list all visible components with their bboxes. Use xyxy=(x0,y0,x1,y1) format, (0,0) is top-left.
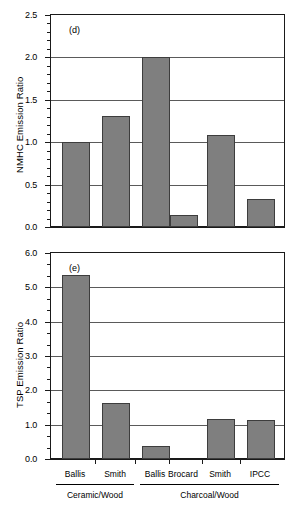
y-axis-minor-tick xyxy=(47,299,50,300)
y-axis-minor-tick xyxy=(47,159,50,160)
panel-label-e: (e) xyxy=(69,263,80,273)
y-axis-minor-tick xyxy=(47,210,50,211)
plot-area-nmhc: (d) xyxy=(50,14,285,228)
y-axis-minor-tick xyxy=(47,74,50,75)
y-axis-tick-label: 5.0 xyxy=(7,283,37,292)
y-axis-tick xyxy=(45,356,50,357)
y-axis-tick xyxy=(45,100,50,101)
y-axis-minor-tick xyxy=(47,66,50,67)
y-axis-tick xyxy=(45,57,50,58)
y-axis-minor-tick xyxy=(47,117,50,118)
y-axis-tick xyxy=(45,459,50,460)
y-axis-tick xyxy=(45,425,50,426)
y-axis-minor-tick xyxy=(47,83,50,84)
bar xyxy=(62,142,90,227)
y-axis-tick xyxy=(45,185,50,186)
y-axis-tick-label: 2.0 xyxy=(7,53,37,62)
y-axis-minor-tick xyxy=(47,367,50,368)
group-label: Ceramic/Wood xyxy=(56,490,134,500)
y-axis-tick xyxy=(45,390,50,391)
bar xyxy=(102,403,130,459)
group-bracket xyxy=(140,484,279,485)
y-axis-minor-tick xyxy=(47,32,50,33)
y-axis-title-nmhc: NMHC Emission Ratio xyxy=(14,77,25,173)
bar xyxy=(207,135,235,227)
y-axis-tick xyxy=(45,287,50,288)
x-axis-tick xyxy=(169,460,170,464)
y-axis-tick-label: 1.0 xyxy=(7,421,37,430)
y-axis-minor-tick xyxy=(47,379,50,380)
group-label: Charcoal/Wood xyxy=(140,490,279,500)
y-axis-tick xyxy=(45,15,50,16)
x-axis-tick xyxy=(240,460,241,464)
x-axis-tick xyxy=(202,460,203,464)
y-axis-tick-label: 1.5 xyxy=(7,96,37,105)
y-axis-tick-label: 0.5 xyxy=(7,181,37,190)
y-axis-minor-tick xyxy=(47,448,50,449)
y-axis-minor-tick xyxy=(47,202,50,203)
bar xyxy=(102,116,130,227)
bar xyxy=(170,215,198,227)
y-axis-minor-tick xyxy=(47,151,50,152)
y-axis-minor-tick xyxy=(47,23,50,24)
y-axis-minor-tick xyxy=(47,310,50,311)
y-axis-tick xyxy=(45,253,50,254)
y-axis-minor-tick xyxy=(47,91,50,92)
y-axis-minor-tick xyxy=(47,264,50,265)
y-axis-minor-tick xyxy=(47,168,50,169)
y-axis-minor-tick xyxy=(47,345,50,346)
figure-emission-ratios: NMHC Emission Ratio (d) TSP Emission Rat… xyxy=(0,0,299,521)
group-bracket xyxy=(56,484,134,485)
y-axis-tick xyxy=(45,227,50,228)
y-axis-minor-tick xyxy=(47,413,50,414)
y-axis-minor-tick xyxy=(47,108,50,109)
x-axis-tick xyxy=(135,460,136,464)
y-axis-minor-tick xyxy=(47,402,50,403)
y-axis-tick-label: 2.5 xyxy=(7,11,37,20)
y-axis-tick-label: 4.0 xyxy=(7,318,37,327)
y-axis-minor-tick xyxy=(47,134,50,135)
bar xyxy=(142,57,170,227)
x-axis-tick xyxy=(95,460,96,464)
y-axis-minor-tick xyxy=(47,193,50,194)
bar xyxy=(247,420,275,459)
plot-area-tsp: (e) xyxy=(50,252,285,460)
panel-label-d: (d) xyxy=(69,25,80,35)
y-axis-tick xyxy=(45,142,50,143)
y-axis-minor-tick xyxy=(47,333,50,334)
y-axis-minor-tick xyxy=(47,176,50,177)
bar xyxy=(207,419,235,459)
x-axis-category-label: IPCC xyxy=(232,469,288,479)
y-axis-tick-label: 0.0 xyxy=(7,223,37,232)
bar xyxy=(247,199,275,227)
y-axis-minor-tick xyxy=(47,49,50,50)
y-axis-minor-tick xyxy=(47,276,50,277)
y-axis-minor-tick xyxy=(47,219,50,220)
y-axis-minor-tick xyxy=(47,125,50,126)
bar xyxy=(62,275,90,459)
y-axis-tick-label: 1.0 xyxy=(7,138,37,147)
y-axis-minor-tick xyxy=(47,436,50,437)
y-axis-title-tsp: TSP Emission Ratio xyxy=(14,322,25,408)
y-axis-tick xyxy=(45,322,50,323)
bar xyxy=(142,446,170,459)
y-axis-tick-label: 6.0 xyxy=(7,249,37,258)
y-axis-minor-tick xyxy=(47,40,50,41)
y-axis-tick-label: 2.0 xyxy=(7,386,37,395)
y-axis-tick-label: 0.0 xyxy=(7,455,37,464)
y-axis-tick-label: 3.0 xyxy=(7,352,37,361)
